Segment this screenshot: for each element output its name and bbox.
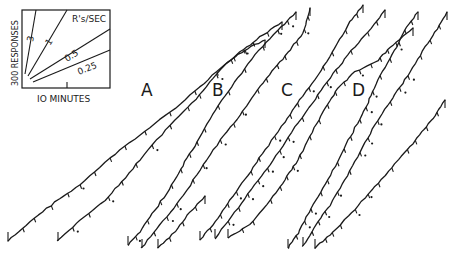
event-dot: [221, 78, 223, 80]
reinforcement-pip: [411, 21, 413, 25]
reinforcement-pip: [351, 137, 353, 141]
reinforcement-pip: [366, 107, 368, 111]
reinforcement-pip: [183, 222, 185, 226]
curve-d-3: [315, 100, 445, 248]
reinforcement-pip: [181, 169, 183, 173]
event-dot: [401, 48, 403, 50]
reinforcement-pip: [220, 215, 222, 219]
reinforcement-pip: [152, 145, 154, 149]
reinforcement-pip: [351, 51, 353, 55]
reinforcement-pip: [327, 82, 329, 86]
reinforcement-pip: [242, 229, 244, 233]
reinforcement-pip: [407, 150, 409, 154]
reinforcement-pip: [421, 56, 423, 60]
reinforcement-pip: [275, 136, 277, 140]
event-dot: [247, 52, 249, 54]
event-dot: [245, 114, 247, 116]
reinforcement-pip: [258, 180, 260, 184]
key-label-3: 3: [25, 35, 36, 42]
reinforcement-pip: [220, 140, 222, 144]
reinforcement-pip: [167, 217, 169, 221]
event-dot: [413, 79, 415, 81]
reinforcement-pip: [344, 149, 346, 153]
reinforcement-pip: [203, 165, 205, 169]
reinforcement-pip: [266, 79, 268, 83]
event-dot: [279, 140, 281, 142]
event-dot: [315, 213, 317, 215]
curve-a-2: [58, 22, 283, 241]
reinforcement-pip: [300, 155, 302, 159]
reinforcement-pip: [309, 88, 311, 92]
event-dot: [82, 187, 84, 189]
event-dot: [280, 33, 282, 35]
event-dot: [283, 156, 285, 158]
reinforcement-pip: [390, 102, 392, 106]
event-dot: [313, 90, 315, 92]
reinforcement-pip: [390, 59, 392, 63]
curve-b-1: [128, 12, 296, 245]
reinforcement-pip: [170, 112, 172, 116]
reinforcement-pip: [405, 30, 407, 34]
reinforcement-pip: [205, 129, 207, 133]
reinforcement-pip: [359, 70, 361, 74]
reinforcement-pip: [236, 192, 238, 196]
reinforcement-pip: [360, 120, 362, 124]
reinforcement-pip: [193, 180, 195, 184]
reinforcement-pip: [305, 221, 307, 225]
event-dot: [328, 216, 330, 218]
reinforcement-pip: [371, 64, 373, 68]
event-dot: [112, 200, 114, 202]
cumulative-record-figure: 3 1 R's/SEC 0.5 0.25 300 RESPONSES IO MI…: [0, 0, 449, 258]
reinforcement-pip: [280, 187, 282, 191]
rate-key-inset: 3 1 R's/SEC 0.5 0.25 300 RESPONSES IO MI…: [11, 10, 110, 104]
event-dot: [262, 185, 264, 187]
event-dot: [206, 167, 208, 169]
reinforcement-pip: [108, 197, 110, 201]
reinforcement-pip: [145, 131, 147, 135]
event-dot: [380, 123, 382, 125]
panel-label-d: D: [352, 80, 365, 100]
reinforcement-pip: [437, 112, 439, 116]
event-dot: [272, 171, 274, 173]
reinforcement-pip: [400, 88, 402, 92]
reinforcement-pip: [368, 194, 370, 198]
reinforcement-pip: [297, 42, 299, 46]
reinforcement-pip: [357, 14, 359, 18]
reinforcement-pip: [350, 171, 352, 175]
event-dot: [252, 198, 254, 200]
curve-d-1: [289, 12, 419, 248]
panel-label-a: A: [141, 80, 153, 100]
reinforcement-pip: [122, 182, 124, 186]
reinforcement-pip: [136, 164, 138, 168]
reinforcement-pip: [439, 25, 441, 29]
event-dot: [172, 220, 174, 222]
curve-b-3: [158, 196, 205, 248]
reinforcement-pip: [346, 30, 348, 34]
cumulative-curves: [8, 5, 447, 248]
event-dot: [371, 111, 373, 113]
reinforcement-pip: [360, 152, 362, 156]
reinforcement-pip: [110, 158, 112, 162]
reinforcement-pip: [243, 111, 245, 115]
reinforcement-pip: [271, 200, 273, 204]
key-label-rate-title: R's/SEC: [72, 14, 106, 24]
reinforcement-pip: [426, 127, 428, 131]
reinforcement-pip: [379, 183, 381, 187]
reinforcement-pip: [308, 17, 310, 21]
key-label-0.5: 0.5: [63, 48, 80, 64]
curve-c-3: [228, 28, 413, 238]
reinforcement-pip: [332, 233, 334, 237]
reinforcement-pip: [335, 92, 337, 96]
event-dot: [307, 32, 309, 34]
reinforcement-pip: [228, 204, 230, 208]
reinforcement-pip: [259, 158, 261, 162]
event-dot: [358, 214, 360, 216]
reinforcement-pip: [326, 239, 328, 243]
reinforcement-pip: [248, 194, 250, 198]
reinforcement-pip: [338, 162, 340, 166]
event-dot: [404, 92, 406, 94]
reinforcement-pip: [195, 207, 197, 211]
reinforcement-pip: [408, 76, 410, 80]
reinforcement-pip: [310, 136, 312, 140]
reinforcement-pip: [170, 125, 172, 129]
